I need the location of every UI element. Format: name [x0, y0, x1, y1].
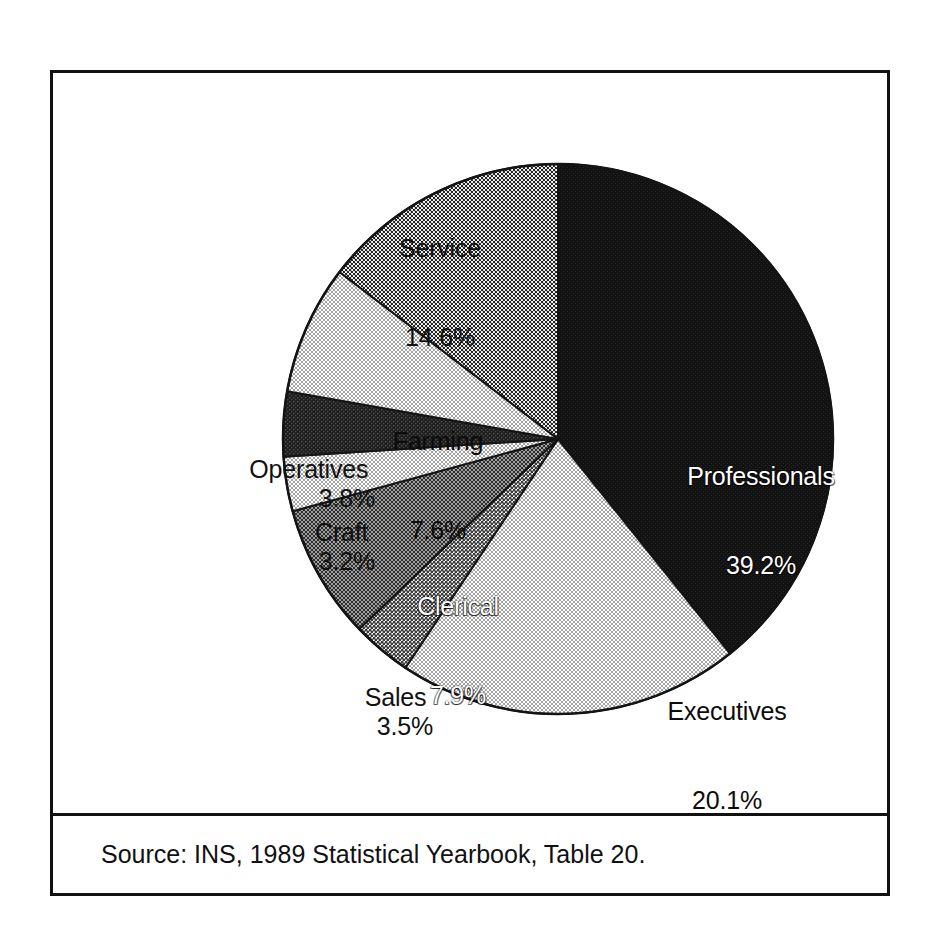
slice-label-executives-value: 20.1%	[627, 786, 827, 816]
slice-label-service-name: Service	[345, 234, 535, 264]
slice-label-craft-value: 3.2%	[319, 547, 375, 575]
source-note: Source: INS, 1989 Statistical Yearbook, …	[53, 816, 887, 893]
slice-label-sales-value: 3.5%	[377, 712, 433, 740]
slice-label-professionals-value: 39.2%	[651, 551, 871, 581]
slice-label-operatives-name: Operatives	[249, 455, 375, 483]
slice-label-professionals-name: Professionals	[651, 462, 871, 492]
slice-label-craft-name: Craft	[315, 518, 375, 546]
slice-label-service-value: 14.6%	[345, 323, 535, 353]
slice-label-farming-name: Farming	[353, 427, 523, 457]
pie-chart-plot-area: Service 14.6% Professionals 39.2% Execut…	[53, 73, 887, 813]
figure-root: Service 14.6% Professionals 39.2% Execut…	[0, 0, 938, 944]
slice-label-professionals: Professionals 39.2%	[651, 403, 871, 639]
slice-label-sales: Sales 3.5%	[213, 653, 433, 771]
source-note-text: Source: INS, 1989 Statistical Yearbook, …	[53, 840, 645, 869]
slice-label-sales-name: Sales	[365, 683, 433, 711]
slice-label-craft: Craft 3.2%	[163, 488, 375, 606]
slice-label-clerical-name: Clerical	[373, 592, 543, 622]
slice-label-executives-name: Executives	[627, 697, 827, 727]
